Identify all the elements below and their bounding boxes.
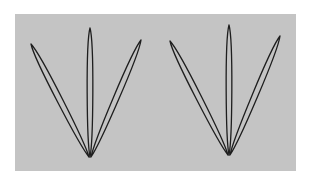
lobe-diagram — [0, 0, 311, 179]
